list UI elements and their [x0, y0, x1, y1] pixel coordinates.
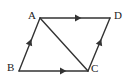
- vertex-label-a: A: [28, 10, 36, 21]
- arrow-marker-BA-icon: [26, 38, 35, 46]
- geometry-figure: A D B C: [0, 0, 132, 84]
- vertex-label-b: B: [7, 62, 14, 73]
- segment-AC-diagonal: [40, 18, 88, 71]
- vertex-label-c: C: [91, 63, 98, 74]
- arrow-marker-CD-icon: [96, 38, 105, 46]
- arrow-marker-BC-icon: [60, 68, 66, 75]
- vertex-label-d: D: [114, 10, 122, 21]
- arrow-marker-AD-icon: [75, 15, 81, 22]
- geometry-canvas: [0, 0, 132, 84]
